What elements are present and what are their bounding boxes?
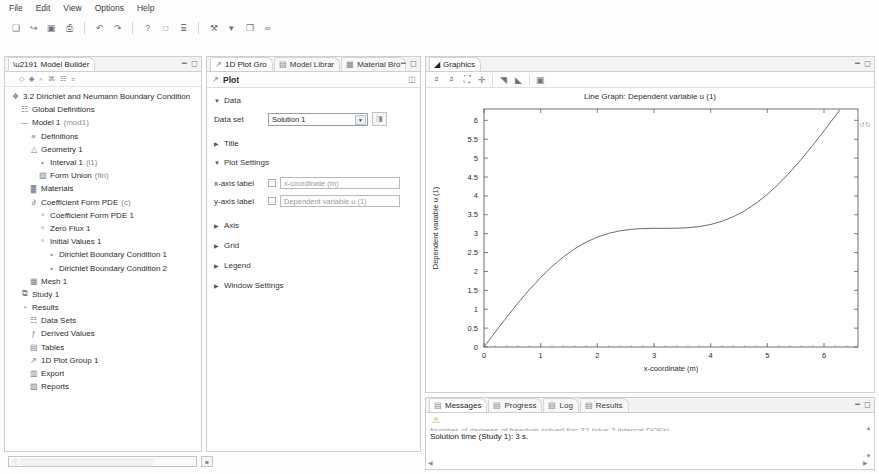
layout-icon[interactable]: ❐ xyxy=(242,21,257,36)
tree-node[interactable]: —Model 1 (mod1) xyxy=(5,116,201,129)
data-set-goto-button[interactable]: ◨ xyxy=(372,112,387,126)
tree-node[interactable]: ☷Data Sets xyxy=(5,314,201,327)
tree-node[interactable]: ⁿZero Flux 1 xyxy=(5,222,201,235)
toolbar-separator xyxy=(198,22,199,34)
messages-body[interactable]: ⚠ Number of degrees of freedom solved fo… xyxy=(426,413,874,467)
collapse-icon[interactable]: ◇ xyxy=(19,75,24,83)
model-tree[interactable]: ❖3.2 Dirichlet and Neumann Boundary Cond… xyxy=(5,87,201,449)
settings-help-icon[interactable]: ◫ xyxy=(408,75,416,84)
tree-node[interactable]: △Geometry 1 xyxy=(5,143,201,156)
redo-icon[interactable]: ↷ xyxy=(110,21,125,36)
tab-log[interactable]: ▤Log xyxy=(543,398,578,412)
desktop-icon[interactable]: ⌸ xyxy=(176,21,191,36)
section-data[interactable]: ▼ Data xyxy=(207,93,420,108)
tree-node[interactable]: •Interval 1 (i1) xyxy=(5,156,201,169)
scroll-right-icon[interactable]: ▶ xyxy=(863,459,868,466)
new-icon[interactable]: ❑ xyxy=(8,21,23,36)
tab-material-bro[interactable]: ▦Material Bro xyxy=(341,57,406,71)
stop-button[interactable]: ■ xyxy=(201,456,213,467)
x-axis-label-input[interactable]: x-coordinate (m) xyxy=(280,177,400,189)
tree-node-label: Dirichlet Boundary Condition 2 xyxy=(59,264,167,273)
build-icon[interactable]: ⚒ xyxy=(206,21,221,36)
y-axis-label-checkbox[interactable] xyxy=(268,197,276,205)
menu-item-view[interactable]: View xyxy=(62,3,82,13)
minimize-icon[interactable]: ━ xyxy=(855,400,860,409)
tree-node[interactable]: ƒDerived Values xyxy=(5,327,201,340)
tree-node[interactable]: ▓Materials xyxy=(5,182,201,195)
tree-node[interactable]: ⁿCoefficient Form PDE 1 xyxy=(5,209,201,222)
menu-item-file[interactable]: File xyxy=(8,3,24,13)
compute-icon[interactable]: ∞ xyxy=(260,21,275,36)
tab-results[interactable]: ▤Results xyxy=(580,398,629,412)
chevron-down-icon[interactable]: ▼ xyxy=(355,115,366,125)
tree-node[interactable]: ⁿInitial Values 1 xyxy=(5,235,201,248)
tab-progress[interactable]: ▤Progress xyxy=(488,398,542,412)
minimize-icon[interactable]: ━ xyxy=(182,59,187,68)
tree-node[interactable]: ▨Form Union (fin) xyxy=(5,169,201,182)
tree-node[interactable]: ◔Results xyxy=(5,301,201,314)
show-icon[interactable]: ⌕ xyxy=(39,75,43,83)
tab-model-librar[interactable]: ▤Model Librar xyxy=(274,57,340,71)
window-icon[interactable]: □ xyxy=(158,21,173,36)
scroll-left-icon[interactable]: ◀ xyxy=(428,459,433,466)
minimize-icon[interactable]: ━ xyxy=(401,59,406,68)
menu-item-options[interactable]: Options xyxy=(94,3,125,13)
maximize-icon[interactable]: ◻ xyxy=(864,59,871,68)
tab-1d-plot-gro[interactable]: ↗1D Plot Gro xyxy=(210,57,273,71)
undo-icon[interactable]: ↶ xyxy=(92,21,107,36)
messages-horizontal-scrollbar[interactable]: ◀ ▶ xyxy=(428,459,868,466)
tab-graphics[interactable]: ◢ Graphics xyxy=(429,57,481,71)
image-snapshot-icon[interactable]: ▣ xyxy=(534,73,547,86)
tree-node[interactable]: •Dirichlet Boundary Condition 1 xyxy=(5,248,201,261)
filter-icon[interactable]: ≡ xyxy=(71,76,75,83)
dropdown-icon[interactable]: ▾ xyxy=(224,21,239,36)
minimize-icon[interactable]: ━ xyxy=(855,59,860,68)
tree-icon[interactable]: ☷ xyxy=(60,75,66,83)
tree-node[interactable]: ▧Reports xyxy=(5,380,201,393)
tree-node[interactable]: ▦Mesh 1 xyxy=(5,275,201,288)
scroll-up-icon[interactable]: ▲ xyxy=(866,425,872,431)
tree-node[interactable]: ∂Coefficient Form PDE (c) xyxy=(5,196,201,209)
section-window-settings[interactable]: ▶ Window Settings xyxy=(207,278,420,293)
zoom-in-icon[interactable]: ⌕ xyxy=(430,73,443,86)
menu-item-help[interactable]: Help xyxy=(136,3,155,13)
transparency-icon[interactable]: ◣ xyxy=(512,73,525,86)
x-axis-label-checkbox[interactable] xyxy=(268,179,276,187)
section-grid[interactable]: ▶ Grid xyxy=(207,238,420,253)
tree-node-icon: • xyxy=(38,158,47,167)
save-icon[interactable]: ▣ xyxy=(44,21,59,36)
tree-node[interactable]: ⧉Study 1 xyxy=(5,288,201,301)
menu-item-edit[interactable]: Edit xyxy=(35,3,52,13)
open-icon[interactable]: ↪ xyxy=(26,21,41,36)
tab-messages[interactable]: ▤Messages xyxy=(429,398,487,412)
tab-graphics-label: Graphics xyxy=(443,60,475,69)
messages-vertical-scrollbar[interactable]: ▲ ▼ xyxy=(865,425,872,459)
y-axis-label-input[interactable]: Dependent variable u (1) xyxy=(280,195,400,207)
tree-node[interactable]: ▥Export xyxy=(5,367,201,380)
maximize-icon[interactable]: ◻ xyxy=(191,59,198,68)
zoom-box-icon[interactable]: ✛ xyxy=(475,73,488,86)
maximize-icon[interactable]: ◻ xyxy=(410,59,417,68)
section-axis[interactable]: ▶ Axis xyxy=(207,218,420,233)
plot-area[interactable]: ↺↻ 00.511.522.533.544.555.560123456x-coo… xyxy=(426,101,876,401)
tree-node[interactable]: ▤Tables xyxy=(5,341,201,354)
zoom-out-icon[interactable]: ⌕ xyxy=(445,73,458,86)
zoom-extents-icon[interactable]: ⛶ xyxy=(460,73,473,86)
scene-light-icon[interactable]: ◥ xyxy=(497,73,510,86)
tree-node[interactable]: ≡Definitions xyxy=(5,130,201,143)
section-plot-settings[interactable]: ▼ Plot Settings xyxy=(207,155,420,170)
tree-node[interactable]: •Dirichlet Boundary Condition 2 xyxy=(5,261,201,274)
section-legend[interactable]: ▶ Legend xyxy=(207,258,420,273)
maximize-icon[interactable]: ◻ xyxy=(864,400,871,409)
tree-node[interactable]: ↗1D Plot Group 1 xyxy=(5,354,201,367)
section-title[interactable]: ▶ Title xyxy=(207,136,420,151)
expand-icon[interactable]: ◆ xyxy=(29,75,34,83)
data-set-select[interactable]: Solution 1 ▼ xyxy=(268,113,368,126)
hide-icon[interactable]: ⌘ xyxy=(48,75,55,83)
tab-model-builder[interactable]: \u2191 Model Builder xyxy=(8,57,95,71)
print-icon[interactable]: ⎙ xyxy=(62,21,77,36)
tree-node[interactable]: ☷Global Definitions xyxy=(5,103,201,116)
tree-node-icon: • xyxy=(47,250,56,259)
tree-node[interactable]: ❖3.2 Dirichlet and Neumann Boundary Cond… xyxy=(5,90,201,103)
help-icon[interactable]: ? xyxy=(140,21,155,36)
